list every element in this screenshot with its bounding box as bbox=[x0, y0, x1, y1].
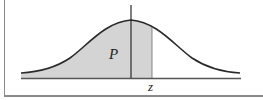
shaded-area-p bbox=[21, 20, 152, 78]
area-label-p: P bbox=[109, 47, 118, 62]
z-label: z bbox=[148, 80, 153, 93]
normal-curve-figure bbox=[0, 0, 263, 100]
